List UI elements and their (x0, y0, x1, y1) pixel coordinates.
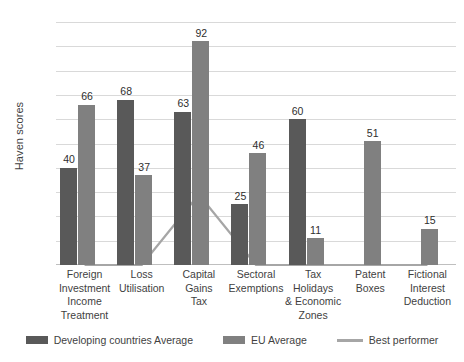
legend-item[interactable]: EU Average (223, 334, 307, 346)
bar-group: 51 (342, 22, 399, 265)
bar-value-label: 46 (241, 140, 275, 151)
x-axis-category-label: FictionalInterestDeduction (399, 268, 456, 309)
x-axis-label-line: Patent Boxes (342, 268, 399, 295)
x-axis-category-label: SectoralExemptions (227, 268, 284, 295)
bar-group: 2546 (227, 22, 284, 265)
bar-value-label: 60 (281, 106, 315, 117)
bar-value-label: 68 (109, 86, 143, 97)
bar-group: 6837 (113, 22, 170, 265)
x-axis-label-line: Foreign (56, 268, 113, 282)
bar-value-label: 15 (413, 215, 447, 226)
legend-label: Best performer (369, 334, 438, 346)
bar (364, 141, 381, 265)
bar-value-label: 11 (299, 225, 333, 236)
legend-swatch-icon (223, 336, 245, 344)
y-axis-title: Haven scores (13, 91, 25, 181)
bar-group: 6011 (285, 22, 342, 265)
x-axis-label-line: & Economic (285, 295, 342, 309)
x-axis-label-line: Investment (56, 282, 113, 296)
x-axis-category-label: Patent Boxes (342, 268, 399, 295)
bar-value-label: 66 (70, 91, 104, 102)
x-axis-label-line: Income (56, 295, 113, 309)
bar-chart: Haven scores 0102030405060708090100 4066… (0, 0, 464, 362)
bar (60, 168, 77, 265)
legend-item[interactable]: Developing countries Average (26, 334, 193, 346)
legend-label: Developing countries Average (54, 334, 193, 346)
bar-value-label: 37 (127, 162, 161, 173)
x-axis-label-line: Capital Gains (170, 268, 227, 295)
bar-group: 15 (399, 22, 456, 265)
legend-item[interactable]: Best performer (337, 334, 438, 346)
x-axis-label-line: Exemptions (227, 282, 284, 296)
bar (192, 41, 209, 265)
x-axis-label-line: Treatment (56, 309, 113, 323)
x-axis-category-label: Capital GainsTax (170, 268, 227, 309)
chart-legend: Developing countries AverageEU AverageBe… (0, 330, 464, 350)
bar (249, 153, 266, 265)
bar-value-label: 51 (356, 128, 390, 139)
x-axis-label-line: Tax (170, 295, 227, 309)
legend-line-icon (337, 339, 363, 342)
x-axis-label-line: Fictional (399, 268, 456, 282)
x-axis-label-line: Interest (399, 282, 456, 296)
x-axis-labels: ForeignInvestmentIncomeTreatmentLossUtil… (56, 268, 456, 324)
bar (135, 175, 152, 265)
bar (117, 100, 134, 265)
bar (307, 238, 324, 265)
bar-group: 6392 (170, 22, 227, 265)
x-axis-category-label: Tax Holidays& EconomicZones (285, 268, 342, 322)
x-axis-label-line: Loss (113, 268, 170, 282)
x-axis-label-line: Deduction (399, 295, 456, 309)
bar (289, 119, 306, 265)
bar (421, 229, 438, 265)
x-axis-label-line: Tax Holidays (285, 268, 342, 295)
legend-label: EU Average (251, 334, 307, 346)
bar (231, 204, 248, 265)
bar (78, 105, 95, 265)
legend-swatch-icon (26, 336, 48, 344)
x-axis-category-label: LossUtilisation (113, 268, 170, 295)
x-axis-label-line: Sectoral (227, 268, 284, 282)
x-axis-label-line: Utilisation (113, 282, 170, 296)
x-axis-category-label: ForeignInvestmentIncomeTreatment (56, 268, 113, 322)
bar (174, 112, 191, 265)
bar-group: 4066 (56, 22, 113, 265)
bar-value-label: 92 (184, 28, 218, 39)
x-axis-label-line: Zones (285, 309, 342, 323)
plot-area: 406668376392254660115115 (56, 22, 456, 265)
